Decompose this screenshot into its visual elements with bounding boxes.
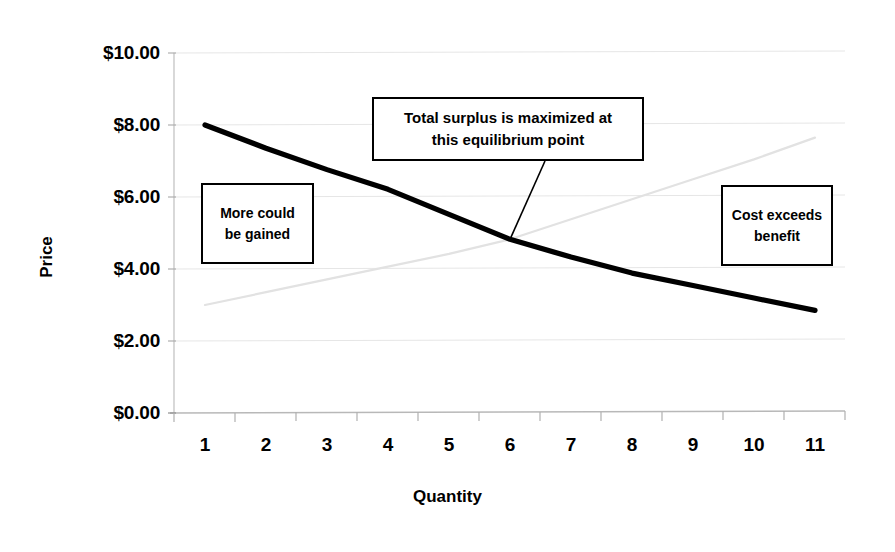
annotation-more-could-be-gained: More could be gained: [201, 183, 314, 264]
annotation-equilibrium-line-1: Total surplus is maximized at: [404, 107, 612, 129]
x-tick-label-6: 6: [505, 435, 516, 454]
y-tick-label-2: $2.00: [113, 331, 160, 350]
x-tick-label-5: 5: [444, 435, 455, 454]
x-tick-label-4: 4: [383, 435, 394, 454]
x-tick-label-2: 2: [261, 435, 272, 454]
x-tick-label-9: 9: [688, 435, 699, 454]
y-tick-label-0: $0.00: [113, 403, 160, 422]
x-tick-label-1: 1: [200, 435, 211, 454]
annotation-cost-exceeds-line-2: benefit: [754, 226, 800, 246]
x-tick-label-3: 3: [322, 435, 333, 454]
annotation-more-gained-line-2: be gained: [225, 224, 290, 244]
annotation-cost-exceeds-line-1: Cost exceeds: [732, 205, 822, 225]
gridline-2: [173, 339, 845, 341]
y-tick-label-8: $8.00: [113, 115, 160, 134]
annotation-equilibrium-line-2: this equilibrium point: [432, 129, 585, 151]
x-axis-line: [170, 411, 845, 413]
chart-canvas: $10.00 $8.00 $6.00 $4.00 $2.00 $0.00 1 2…: [0, 0, 895, 552]
gridline-10: [173, 51, 845, 53]
y-axis-ticks: [168, 53, 176, 413]
annotation-cost-exceeds-benefit: Cost exceeds benefit: [721, 185, 833, 266]
x-tick-label-7: 7: [566, 435, 577, 454]
x-tick-label-11: 11: [805, 435, 825, 454]
gridline-4: [173, 267, 845, 269]
y-tick-label-6: $6.00: [113, 187, 160, 206]
y-tick-label-10: $10.00: [103, 43, 160, 62]
annotation-equilibrium: Total surplus is maximized at this equil…: [372, 97, 644, 161]
x-axis-title: Quantity: [0, 487, 895, 507]
annotation-more-gained-line-1: More could: [220, 203, 295, 223]
y-tick-label-4: $4.00: [113, 259, 160, 278]
x-tick-label-8: 8: [627, 435, 638, 454]
x-tick-label-10: 10: [743, 435, 764, 454]
y-axis-title: Price: [37, 197, 57, 317]
equilibrium-leader-line: [510, 161, 545, 239]
